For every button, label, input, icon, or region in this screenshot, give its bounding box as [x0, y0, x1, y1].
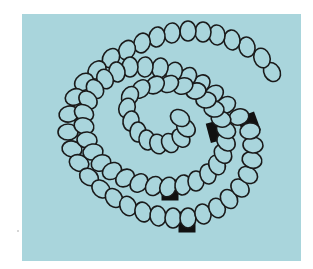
bead	[195, 22, 211, 42]
speck	[17, 230, 19, 232]
bead	[165, 208, 181, 228]
bead	[163, 22, 180, 43]
bead	[180, 208, 196, 228]
bead	[180, 21, 196, 41]
bead	[223, 29, 242, 51]
bead-spiral-diagram	[0, 0, 313, 269]
bead	[136, 56, 153, 77]
